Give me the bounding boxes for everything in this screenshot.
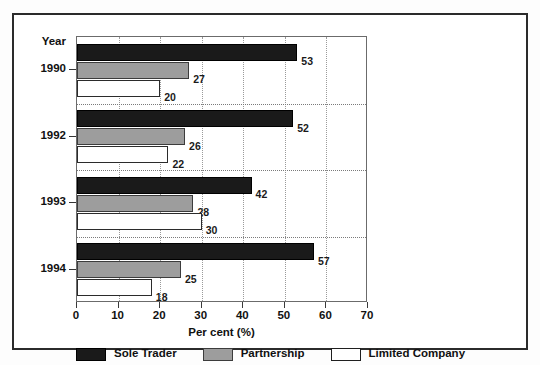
- x-axis-tick-30: 30: [194, 310, 207, 322]
- legend-swatch-sole: [76, 348, 106, 361]
- legend-label: Partnership: [241, 348, 305, 360]
- x-tick-mark: [284, 302, 285, 308]
- bar-value-label: 42: [256, 189, 268, 200]
- legend-item-partnership: Partnership: [203, 348, 305, 361]
- bar-1993-partnership: [77, 195, 193, 212]
- bar-value-label: 25: [185, 274, 197, 285]
- group-separator: [77, 170, 366, 171]
- legend-label: Sole Trader: [114, 348, 177, 360]
- x-axis-ticks: 010203040506070: [76, 302, 367, 326]
- x-axis-tick-10: 10: [111, 310, 124, 322]
- bar-value-label: 53: [301, 56, 313, 67]
- x-axis-tick-40: 40: [236, 310, 249, 322]
- x-tick-mark: [159, 302, 160, 308]
- x-axis-tick-0: 0: [73, 310, 79, 322]
- bar-1990-sole: [77, 44, 297, 61]
- x-gridline: [243, 37, 244, 301]
- legend-item-limited: Limited Company: [331, 348, 465, 361]
- x-axis-tick-20: 20: [153, 310, 166, 322]
- x-axis-tick-60: 60: [319, 310, 332, 322]
- chart-legend: Sole TraderPartnershipLimited Company: [76, 346, 491, 362]
- bar-value-label: 57: [318, 256, 330, 267]
- bar-1990-limited: [77, 80, 160, 97]
- x-gridline: [285, 37, 286, 301]
- legend-item-sole: Sole Trader: [76, 348, 177, 361]
- legend-swatch-limited: [331, 348, 361, 361]
- y-axis-tick-labels: 1990199219931994: [14, 15, 66, 315]
- legend-label: Limited Company: [369, 348, 465, 360]
- group-separator: [77, 237, 366, 238]
- bar-value-label: 30: [206, 225, 218, 236]
- x-axis-tick-50: 50: [277, 310, 290, 322]
- bar-1993-sole: [77, 177, 252, 194]
- bar-1993-limited: [77, 213, 202, 230]
- y-tick-mark: [69, 136, 76, 137]
- y-axis-tick-1994: 1994: [40, 263, 66, 275]
- plot-area: 532720522622422830572518: [76, 36, 367, 302]
- x-tick-mark: [118, 302, 119, 308]
- y-axis-tick-1990: 1990: [40, 63, 66, 75]
- bar-1994-limited: [77, 279, 152, 296]
- chart-figure: Year 1990199219931994 532720522622422830…: [0, 0, 540, 365]
- figure-border: Year 1990199219931994 532720522622422830…: [12, 13, 528, 350]
- bar-value-label: 22: [172, 159, 184, 170]
- x-tick-mark: [367, 302, 368, 308]
- bar-value-label: 18: [156, 292, 168, 303]
- bar-1994-partnership: [77, 261, 181, 278]
- legend-swatch-partnership: [203, 348, 233, 361]
- bar-value-label: 52: [297, 123, 309, 134]
- bar-1994-sole: [77, 243, 314, 260]
- bar-value-label: 27: [193, 74, 205, 85]
- x-tick-mark: [201, 302, 202, 308]
- y-tick-mark: [69, 69, 76, 70]
- x-axis-tick-70: 70: [361, 310, 374, 322]
- y-tick-mark: [69, 269, 76, 270]
- x-tick-mark: [76, 302, 77, 308]
- group-separator: [77, 104, 366, 105]
- y-tick-mark: [69, 202, 76, 203]
- bar-1992-limited: [77, 146, 168, 163]
- x-axis-title: Per cent (%): [76, 326, 367, 338]
- bar-1990-partnership: [77, 62, 189, 79]
- x-tick-mark: [325, 302, 326, 308]
- bar-value-label: 26: [189, 141, 201, 152]
- x-tick-mark: [242, 302, 243, 308]
- bar-value-label: 20: [164, 92, 176, 103]
- y-axis-tick-1993: 1993: [40, 196, 66, 208]
- bar-1992-partnership: [77, 128, 185, 145]
- bar-1992-sole: [77, 110, 293, 127]
- y-axis-tick-1992: 1992: [40, 130, 66, 142]
